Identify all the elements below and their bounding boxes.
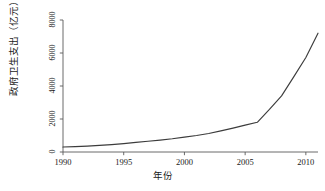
x-axis-tick-label: 2005 <box>225 157 265 167</box>
x-axis-ticks <box>63 152 306 155</box>
y-axis-title: 政府卫生支出（亿元） <box>9 0 20 106</box>
y-axis-tick-label: 6000 <box>48 35 57 69</box>
y-axis-tick-label: 2000 <box>48 101 57 135</box>
data-series-line <box>63 33 318 147</box>
y-axis-tick-label: 8000 <box>48 2 57 36</box>
y-axis-ticks <box>60 20 63 152</box>
x-axis-tick-label: 2000 <box>164 157 204 167</box>
x-axis-tick-label: 1995 <box>104 157 144 167</box>
x-axis-tick-label: 2010 <box>286 157 325 167</box>
axis-lines <box>63 20 318 152</box>
x-axis-tick-label: 1990 <box>43 157 83 167</box>
x-axis-title: 年份 <box>0 168 325 182</box>
y-axis-tick-label: 4000 <box>48 68 57 102</box>
line-chart-figure: 政府卫生支出（亿元） 年份 02000400060008000 19901995… <box>0 0 325 191</box>
